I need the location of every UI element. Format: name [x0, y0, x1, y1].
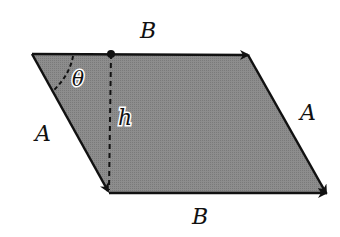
parallelogram-diagram: B A A B h θ — [0, 0, 340, 237]
label-height-h: h — [118, 105, 132, 130]
label-right-a: A — [298, 100, 316, 125]
side-top-b-arrow — [32, 54, 248, 55]
label-angle-theta: θ — [72, 67, 84, 91]
label-left-a: A — [33, 121, 51, 146]
label-bottom-b: B — [191, 204, 208, 229]
label-top-b: B — [139, 18, 156, 43]
height-foot-dot — [107, 50, 115, 58]
